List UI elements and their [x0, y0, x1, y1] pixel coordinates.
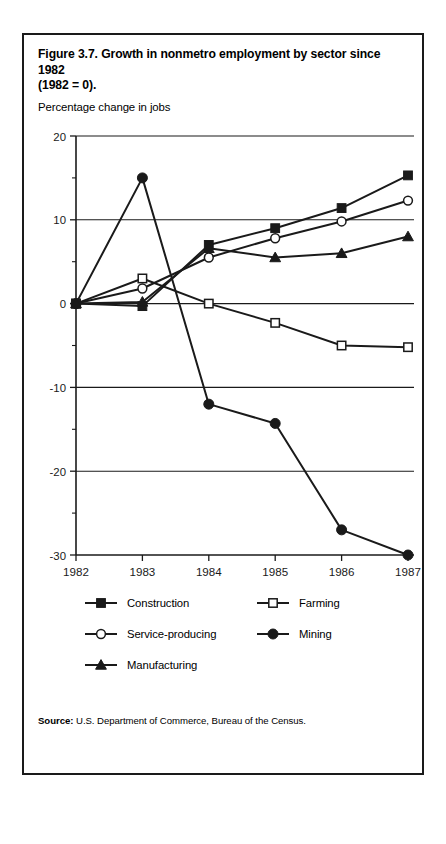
legend-entry-manufacturing: Manufacturing [84, 657, 197, 673]
source-label: Source: [38, 715, 73, 726]
legend-row: ConstructionFarming [60, 595, 405, 626]
source-text: U.S. Department of Commerce, Bureau of t… [76, 715, 306, 726]
open-circle-icon [84, 626, 118, 642]
svg-text:20: 20 [53, 131, 66, 143]
svg-text:1984: 1984 [196, 565, 222, 578]
figure-panel: Figure 3.7. Growth in nonmetro employmen… [22, 33, 424, 775]
source-note: Source: U.S. Department of Commerce, Bur… [38, 715, 306, 726]
svg-text:1983: 1983 [130, 565, 156, 578]
y-axis-tick-labels: 20100-10-20-30 [50, 131, 66, 562]
svg-text:-20: -20 [50, 466, 66, 478]
svg-text:1982: 1982 [63, 565, 89, 578]
filled-triangle-icon [84, 657, 118, 673]
chart-legend: ConstructionFarmingService-producingMini… [60, 595, 405, 688]
legend-label: Farming [299, 597, 340, 609]
legend-entry-farming: Farming [256, 595, 340, 611]
svg-text:1986: 1986 [329, 565, 355, 578]
legend-entry-mining: Mining [256, 626, 332, 642]
open-square-icon [256, 595, 290, 611]
svg-text:10: 10 [53, 214, 66, 226]
legend-row: Manufacturing [60, 657, 405, 688]
legend-label: Construction [127, 597, 189, 609]
series-markers [71, 171, 414, 560]
legend-entry-service-producing: Service-producing [84, 626, 216, 642]
legend-label: Manufacturing [127, 659, 197, 671]
svg-text:1985: 1985 [262, 565, 288, 578]
x-axis-ticks [76, 555, 408, 561]
filled-circle-icon [256, 626, 290, 642]
y-axis-minor-ticks [70, 136, 76, 555]
svg-text:-10: -10 [50, 382, 66, 394]
legend-row: Service-producingMining [60, 626, 405, 657]
x-axis-tick-labels: 198219831984198519861987 [63, 565, 421, 578]
legend-label: Service-producing [127, 628, 216, 640]
svg-text:0: 0 [60, 298, 66, 310]
legend-label: Mining [299, 628, 332, 640]
svg-text:-30: -30 [50, 550, 66, 562]
filled-square-icon [84, 595, 118, 611]
legend-entry-construction: Construction [84, 595, 189, 611]
series-lines [76, 175, 408, 555]
svg-text:1987: 1987 [395, 565, 421, 578]
line-chart-svg: 20100-10-20-30 198219831984198519861987 [24, 35, 426, 595]
